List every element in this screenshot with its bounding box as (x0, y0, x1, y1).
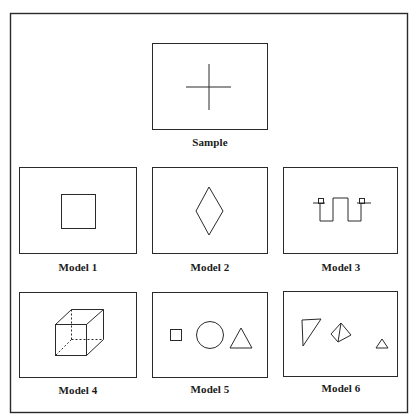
label-model-2: Model 2 (150, 261, 270, 273)
panel-model-4 (20, 293, 137, 378)
cube-icon (56, 310, 104, 356)
panel-model-3 (284, 168, 398, 254)
panel-model-5-box (153, 293, 268, 378)
small-square-icon (171, 330, 182, 341)
label-model-6: Model 6 (281, 382, 401, 394)
diamond-icon (196, 187, 223, 235)
triangle-icon (230, 328, 252, 348)
panel-model-1-box (20, 168, 137, 254)
label-sample: Sample (150, 136, 270, 148)
panel-model-3-box (284, 168, 398, 254)
circle-icon (197, 322, 224, 349)
small-triangle-icon (376, 339, 388, 348)
right-triangle-icon (302, 319, 321, 346)
square-wave-icon (313, 198, 371, 221)
panel-model-6 (284, 292, 398, 377)
square-icon (62, 195, 96, 229)
label-model-5: Model 5 (150, 383, 270, 395)
panel-model-2-box (153, 168, 268, 254)
panel-sample (153, 44, 268, 130)
figure-canvas (0, 0, 417, 419)
panel-model-6-box (284, 292, 398, 377)
label-model-1: Model 1 (18, 261, 138, 273)
panel-model-1 (20, 168, 137, 254)
panel-model-4-box (20, 293, 137, 378)
tetrahedron-icon (331, 323, 351, 342)
panel-model-5 (153, 293, 268, 378)
label-model-4: Model 4 (18, 384, 138, 396)
panel-model-2 (153, 168, 268, 254)
label-model-3: Model 3 (281, 261, 401, 273)
cross-icon (186, 64, 231, 110)
